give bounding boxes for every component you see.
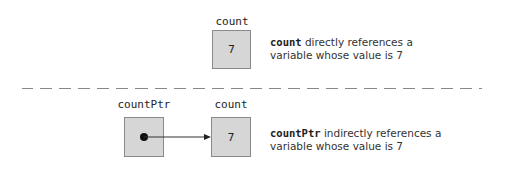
bottom-description-line2: variable whose value is 7 — [270, 140, 441, 153]
bottom-description-code: countPtr — [270, 127, 321, 139]
bottom-description: countPtr indirectly references a variabl… — [270, 127, 441, 153]
bottom-description-line1-text: indirectly references a — [321, 127, 442, 139]
bottom-description-line1: countPtr indirectly references a — [270, 127, 441, 140]
arrowhead-icon — [204, 134, 211, 140]
